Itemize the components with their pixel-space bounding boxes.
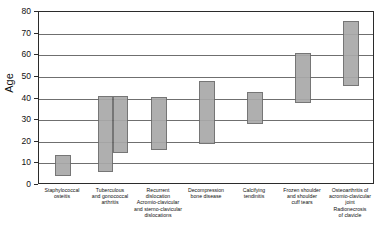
x-axis-category-label-0: Staphylococcal osteitis xyxy=(38,187,86,199)
bar xyxy=(295,53,310,103)
bar xyxy=(55,155,70,177)
y-tick-label-10: 10 xyxy=(3,158,31,166)
x-axis-category-label-5: Frozen shoulder and shoulder cuff tears xyxy=(278,187,326,206)
x-axis-category-label-4: Calcifying tendinitis xyxy=(230,187,278,199)
y-tick-label-0: 0 xyxy=(3,180,31,188)
y-tick-label-60: 60 xyxy=(3,50,31,58)
bar xyxy=(151,97,166,150)
y-tick-label-20: 20 xyxy=(3,137,31,145)
y-tick-label-70: 70 xyxy=(3,29,31,37)
gridline-0 xyxy=(39,185,373,186)
y-tick-label-50: 50 xyxy=(3,72,31,80)
y-tick-mark-0 xyxy=(34,184,38,185)
x-axis-category-label-1: Tuberculous and gonococcal arthritis xyxy=(86,187,134,206)
plot-area xyxy=(38,11,374,184)
bar xyxy=(199,81,214,144)
bar-series xyxy=(39,12,373,183)
y-axis-tick-labels: 01020304050607080 xyxy=(0,0,38,238)
bar xyxy=(343,21,358,86)
bar xyxy=(113,96,128,152)
x-axis-category-label-6: Osteoarthritis of acromio-clavicular joi… xyxy=(326,187,374,218)
x-axis-category-label-3: Decompression bone disease xyxy=(182,187,230,199)
y-tick-label-30: 30 xyxy=(3,115,31,123)
x-axis-category-label-2: Recurrent dislocation Acromio-clavicular… xyxy=(134,187,182,218)
y-tick-label-40: 40 xyxy=(3,94,31,102)
bar xyxy=(98,96,113,172)
age-range-chart: Age 01020304050607080 Staphylococcal ost… xyxy=(0,0,385,238)
x-axis-category-labels: Staphylococcal osteitisTuberculous and g… xyxy=(38,187,374,238)
y-tick-label-80: 80 xyxy=(3,7,31,15)
bar xyxy=(247,92,262,124)
